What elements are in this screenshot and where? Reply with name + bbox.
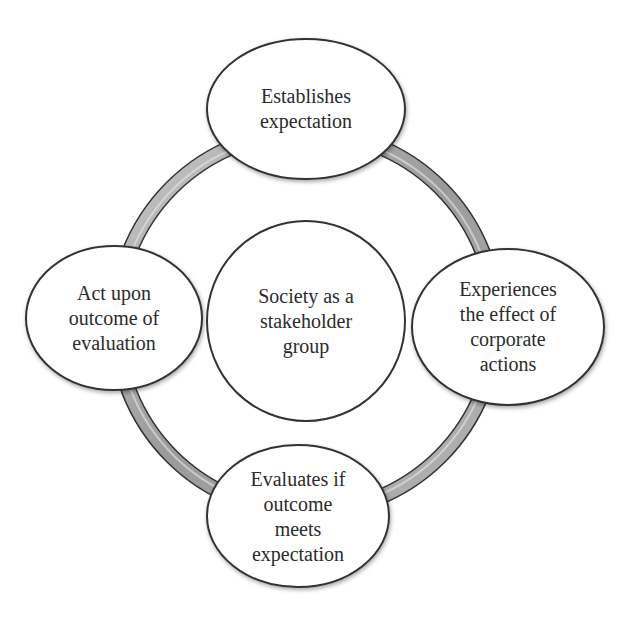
- center-node-label: Society as a stakeholder group: [207, 221, 405, 421]
- node-left-label: Act upon outcome of evaluation: [26, 246, 202, 390]
- cycle-diagram: Establishes expectation Experiences the …: [0, 0, 627, 619]
- node-right-label: Experiences the effect of corporate acti…: [412, 249, 604, 405]
- node-top-label: Establishes expectation: [207, 39, 405, 179]
- node-bottom-label: Evaluates if outcome meets expectation: [207, 446, 389, 587]
